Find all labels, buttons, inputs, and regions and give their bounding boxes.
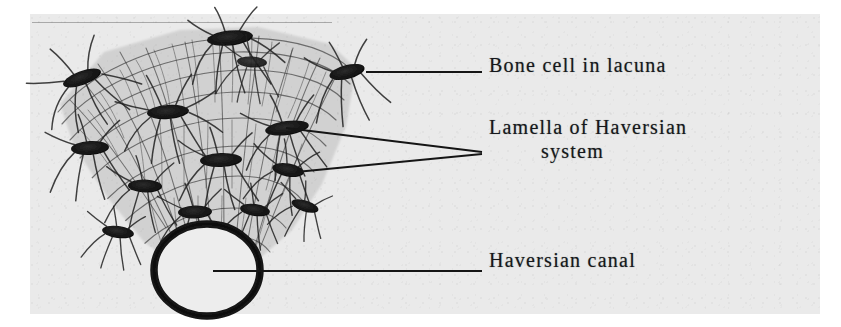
label-lamella-of-haversian-system: Lamella of Haversian system [489, 116, 687, 163]
label-lamella-text: Lamella of Haversian [489, 116, 687, 138]
label-lamella-continuation: system [489, 140, 687, 164]
label-haversian-canal-text: Haversian canal [489, 249, 636, 271]
label-bone-cell-in-lacuna: Bone cell in lacuna [489, 54, 667, 78]
haversian-canal [154, 224, 260, 316]
figure-page: Bone cell in lacuna Lamella of Haversian… [0, 0, 841, 327]
bone-histology-illustration [0, 0, 841, 327]
label-bone-cell-text: Bone cell in lacuna [489, 54, 667, 76]
label-haversian-canal: Haversian canal [489, 249, 636, 273]
